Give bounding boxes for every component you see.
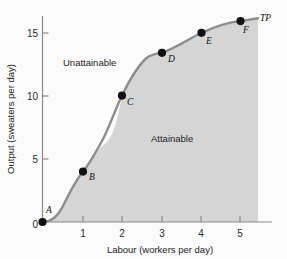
data-point-B: [79, 168, 87, 176]
x-tick-label-4: 4: [198, 228, 204, 239]
data-point-A: [38, 218, 46, 226]
data-point-C: [118, 92, 126, 100]
chart-canvas: 15 10 5 0 1 2 3 4 5 A B C D E F TP Unatt…: [0, 0, 287, 259]
data-point-label-A: A: [45, 205, 52, 215]
data-point-label-B: B: [89, 172, 95, 182]
attainable-region-fill: [43, 19, 259, 223]
y-tick-label-15: 15: [27, 28, 39, 39]
x-tick-label-1: 1: [80, 228, 86, 239]
data-point-E: [197, 29, 205, 37]
x-axis-title: Labour (workers per day): [107, 244, 213, 255]
y-tick-label-5: 5: [32, 154, 38, 165]
data-point-label-F: F: [242, 25, 249, 35]
x-tick-label-3: 3: [159, 228, 165, 239]
y-tick-label-0: 0: [32, 219, 38, 230]
data-point-label-C: C: [127, 97, 134, 107]
y-tick-label-10: 10: [27, 91, 39, 102]
data-point-label-E: E: [205, 36, 212, 46]
x-tick-label-5: 5: [237, 228, 243, 239]
y-axis-ticks: [43, 33, 49, 159]
y-axis-title: Output (sweaters per day): [5, 64, 16, 174]
attainable-region-label: Attainable: [151, 133, 193, 144]
x-tick-label-2: 2: [119, 228, 125, 239]
production-function-chart: 15 10 5 0 1 2 3 4 5 A B C D E F TP Unatt…: [0, 0, 287, 259]
data-point-D: [158, 49, 166, 57]
data-point-F: [236, 17, 244, 25]
total-product-curve-label: TP: [260, 13, 271, 23]
unattainable-region-label: Unattainable: [63, 57, 116, 68]
data-point-label-D: D: [167, 54, 175, 64]
